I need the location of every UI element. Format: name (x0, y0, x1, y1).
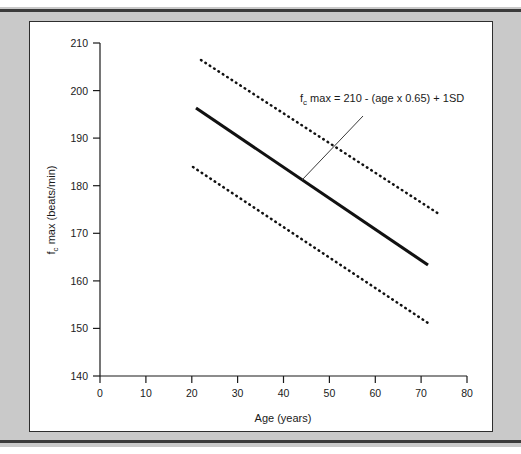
y-axis-ticks (93, 43, 100, 376)
x-tick-label-80: 80 (461, 387, 473, 399)
figure-page: 210 200 190 180 170 160 150 140 (0, 0, 521, 454)
y-tick-label-170: 170 (70, 227, 88, 239)
y-tick-label-160: 160 (70, 275, 88, 287)
y-axis-title-suffix: max (beats/min) (45, 166, 57, 248)
y-tick-label-180: 180 (70, 180, 88, 192)
x-tick-label-0: 0 (97, 387, 103, 399)
y-axis-title-group: fc max (beats/min) (45, 166, 60, 255)
x-tick-label-60: 60 (369, 387, 381, 399)
y-tick-label-200: 200 (70, 85, 88, 97)
y-tick-label-190: 190 (70, 132, 88, 144)
x-axis-title: Age (years) (255, 412, 312, 424)
series-mean-line (196, 108, 428, 265)
y-tick-label-150: 150 (70, 322, 88, 334)
chart-canvas: 210 200 190 180 170 160 150 140 (30, 22, 494, 433)
y-axis-tick-labels: 210 200 190 180 170 160 150 140 (70, 37, 88, 382)
x-axis-ticks (100, 376, 467, 383)
annotation-formula-suffix: max = 210 - (age x 0.65) + 1SD (307, 92, 464, 104)
series-lower-sd-line (193, 167, 428, 323)
y-axis-title: fc max (beats/min) (45, 166, 60, 255)
x-tick-label-20: 20 (186, 387, 198, 399)
top-rule-divider (0, 9, 521, 12)
x-tick-label-50: 50 (324, 387, 336, 399)
figure-panel: 210 200 190 180 170 160 150 140 (29, 21, 493, 432)
bottom-rule-divider (0, 440, 521, 443)
x-tick-label-10: 10 (140, 387, 152, 399)
x-axis-tick-labels: 0 10 20 30 40 50 60 70 80 (97, 387, 473, 399)
x-tick-label-30: 30 (232, 387, 244, 399)
annotation-leader-line (302, 116, 363, 180)
y-tick-label-140: 140 (70, 370, 88, 382)
x-tick-label-70: 70 (415, 387, 427, 399)
annotation-formula: fc max = 210 - (age x 0.65) + 1SD (300, 92, 464, 107)
x-tick-label-40: 40 (278, 387, 290, 399)
y-tick-label-210: 210 (70, 37, 88, 49)
